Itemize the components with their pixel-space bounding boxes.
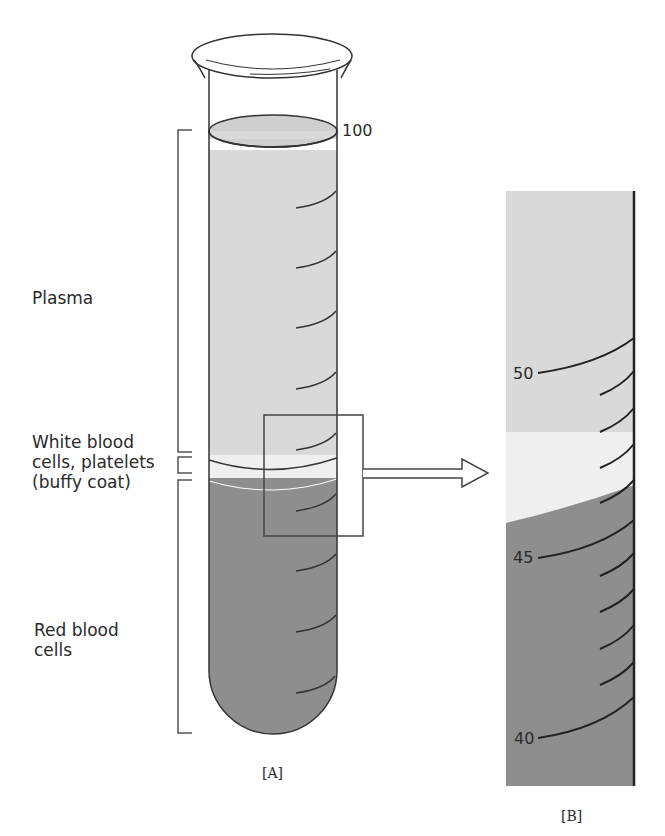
tube-contents xyxy=(205,132,345,748)
panel-b-enlarged-scale xyxy=(506,191,635,786)
panel-a-caption: [A] xyxy=(262,765,283,781)
panel-b-caption: [B] xyxy=(561,808,582,824)
blood-separation-diagram xyxy=(0,0,665,836)
rbc-bracket xyxy=(178,480,192,733)
scale-label-45: 45 xyxy=(513,548,533,567)
plasma-layer xyxy=(205,132,345,462)
buffy-coat-bracket xyxy=(178,457,192,473)
rbc-label: Red blood cells xyxy=(34,620,119,660)
scale-label-100: 100 xyxy=(342,121,373,140)
layer-brackets xyxy=(178,130,192,733)
rbc-layer xyxy=(205,478,345,748)
plasma-label: Plasma xyxy=(32,288,93,308)
buffy-coat-label: White blood cells, platelets (buffy coat… xyxy=(32,432,155,492)
scale-label-40: 40 xyxy=(514,729,534,748)
scale-label-50: 50 xyxy=(513,364,533,383)
arrow-icon xyxy=(363,459,488,487)
plasma-bracket xyxy=(178,130,192,452)
